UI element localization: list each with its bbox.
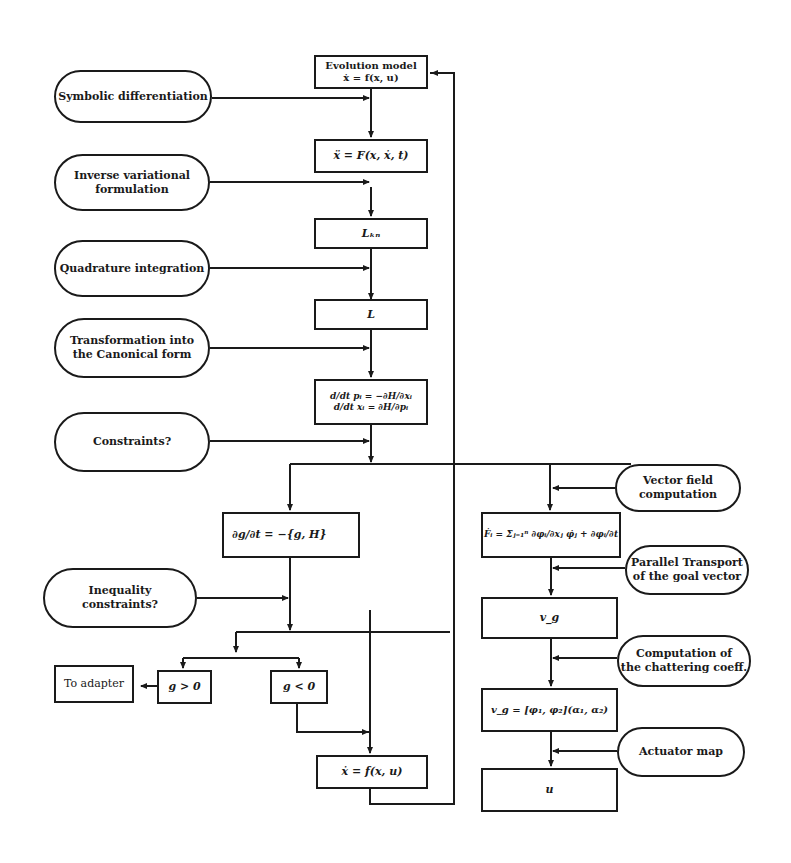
inverse-variational-label: Inverse variational formulation	[74, 169, 190, 197]
symbolic-differentiation-node: Symbolic differentiation	[54, 70, 212, 123]
chattering-equation-box: v_g = [φ₁, φ₂](α₁, α₂)	[481, 688, 618, 732]
lagrangian-kn-label: Lₖₙ	[362, 227, 381, 241]
second-order-equation-box: ẍ = F(x, ẋ, t)	[314, 139, 428, 173]
g-positive-box: g > 0	[157, 670, 212, 704]
inverse-variational-node: Inverse variational formulation	[54, 154, 210, 211]
g-negative-box: g < 0	[270, 670, 328, 704]
constraints-node: Constraints?	[54, 412, 210, 472]
to-adapter-label: To adapter	[64, 677, 124, 691]
g-positive-label: g > 0	[168, 680, 200, 694]
lagrangian-box: L	[314, 299, 428, 330]
chattering-equation-label: v_g = [φ₁, φ₂](α₁, α₂)	[491, 704, 608, 717]
chattering-coefficient-node: Computation of the chattering coeff.	[617, 635, 751, 687]
chattering-coefficient-label: Computation of the chattering coeff.	[621, 647, 747, 675]
control-output-label: u	[546, 783, 554, 797]
control-output-box: u	[481, 768, 618, 812]
symbolic-differentiation-label: Symbolic differentiation	[58, 90, 208, 104]
evolution-model-box: Evolution model ẋ = f(x, u)	[314, 55, 428, 89]
constraint-poisson-box: ∂g/∂t = −{g, H}	[222, 512, 360, 558]
goal-vector-label: v_g	[540, 611, 560, 625]
actuator-map-node: Actuator map	[617, 727, 745, 777]
vector-field-computation-label: Vector field computation	[639, 474, 717, 502]
evolution-model-label: Evolution model ẋ = f(x, u)	[325, 60, 416, 85]
vector-field-equation-box: Ḟᵢ = Σⱼ₌₁ⁿ ∂φᵢ/∂xⱼ φ̇ⱼ + ∂φᵢ/∂t	[481, 512, 621, 558]
lagrangian-kn-box: Lₖₙ	[314, 218, 428, 249]
quadrature-integration-label: Quadrature integration	[60, 262, 205, 276]
parallel-transport-label: Parallel Transport of the goal vector	[631, 556, 743, 584]
vector-field-equation-label: Ḟᵢ = Σⱼ₌₁ⁿ ∂φᵢ/∂xⱼ φ̇ⱼ + ∂φᵢ/∂t	[484, 529, 618, 540]
actuator-map-label: Actuator map	[639, 745, 723, 759]
constraints-label: Constraints?	[93, 435, 171, 449]
hamilton-equations-label: d/dt pᵢ = −∂H/∂xᵢ d/dt xᵢ = ∂H/∂pᵢ	[330, 391, 412, 414]
lagrangian-label: L	[367, 308, 375, 322]
quadrature-integration-node: Quadrature integration	[54, 240, 210, 297]
inequality-constraints-node: Inequality constraints?	[43, 568, 197, 628]
constraint-poisson-label: ∂g/∂t = −{g, H}	[232, 528, 327, 542]
hamilton-equations-box: d/dt pᵢ = −∂H/∂xᵢ d/dt xᵢ = ∂H/∂pᵢ	[314, 379, 428, 425]
inequality-constraints-label: Inequality constraints?	[82, 584, 158, 612]
canonical-transformation-node: Transformation into the Canonical form	[54, 318, 210, 378]
state-equation-label: ẋ = f(x, u)	[342, 765, 403, 779]
state-equation-box: ẋ = f(x, u)	[316, 755, 428, 789]
vector-field-computation-node: Vector field computation	[615, 464, 741, 512]
parallel-transport-node: Parallel Transport of the goal vector	[625, 545, 749, 595]
second-order-equation-label: ẍ = F(x, ẋ, t)	[333, 149, 408, 163]
canonical-transformation-label: Transformation into the Canonical form	[70, 334, 194, 362]
g-negative-label: g < 0	[283, 680, 315, 694]
goal-vector-box: v_g	[481, 597, 618, 639]
to-adapter-box: To adapter	[54, 665, 134, 703]
